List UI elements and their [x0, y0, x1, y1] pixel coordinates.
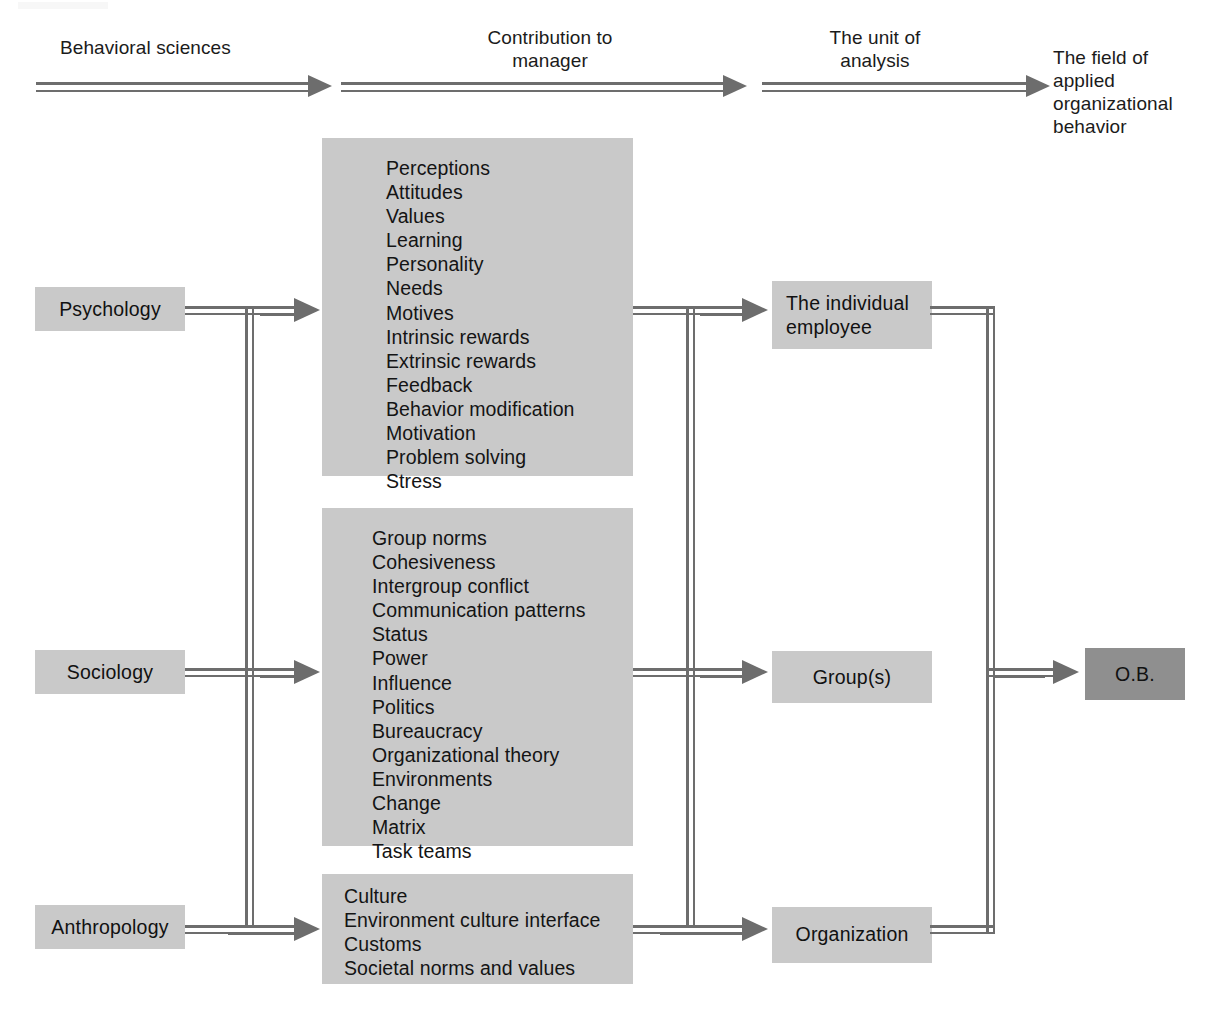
unit-label-organization: Organization [772, 922, 932, 946]
arrowhead-anthropology-to-contribution [294, 917, 320, 941]
unit-box-individual-employee[interactable]: The individual employee [772, 281, 932, 349]
connector-mid-anthropology-stub [660, 932, 745, 935]
list-item: Feedback [386, 373, 575, 397]
list-item: Societal norms and values [344, 956, 601, 980]
outcome-label-ob: O.B. [1085, 662, 1185, 686]
list-item: Attitudes [386, 180, 575, 204]
list-item: Perceptions [386, 156, 575, 180]
discipline-box-sociology[interactable]: Sociology [35, 650, 185, 694]
list-item: Cohesiveness [372, 550, 586, 574]
header-label-field-of-applied-ob: The field of applied organizational beha… [1053, 46, 1213, 138]
list-item: Motives [386, 301, 575, 325]
list-item: Problem solving [386, 445, 575, 469]
contribution-list-anthropology: Culture Environment culture interface Cu… [344, 884, 601, 980]
unit-box-organization[interactable]: Organization [772, 907, 932, 963]
list-item: Environment culture interface [344, 908, 601, 932]
list-item: Influence [372, 671, 586, 695]
contribution-list-sociology: Group norms Cohesiveness Intergroup conf… [372, 526, 586, 863]
list-item: Task teams [372, 839, 586, 863]
arrowhead-contribution-to-individual [742, 298, 768, 322]
list-item: Behavior modification [386, 397, 575, 421]
list-item: Personality [386, 252, 575, 276]
header-label-behavioral-sciences: Behavioral sciences [60, 36, 320, 59]
list-item: Change [372, 791, 586, 815]
connector-mid-psychology-stub [700, 313, 745, 316]
discipline-label-anthropology: Anthropology [35, 915, 185, 939]
arrowhead-collector-to-ob [1053, 660, 1079, 684]
list-item: Motivation [386, 421, 575, 445]
list-item: Group norms [372, 526, 586, 550]
contribution-box-anthropology[interactable]: Culture Environment culture interface Cu… [322, 874, 633, 984]
unit-box-groups[interactable]: Group(s) [772, 651, 932, 703]
list-item: Bureaucracy [372, 719, 586, 743]
scan-artifact [18, 2, 108, 9]
header-label-contribution-to-manager: Contribution to manager [425, 26, 675, 72]
list-item: Status [372, 622, 586, 646]
outcome-box-ob[interactable]: O.B. [1085, 648, 1185, 700]
list-item: Organizational theory [372, 743, 586, 767]
contribution-list-psychology: Perceptions Attitudes Values Learning Pe… [386, 156, 575, 493]
arrowhead-sociology-to-contribution [294, 660, 320, 684]
connector-ob-stub [995, 675, 1045, 678]
connector-right-collector-spine [986, 306, 995, 934]
discipline-label-sociology: Sociology [35, 660, 185, 684]
connector-anthropology-stub [228, 932, 300, 935]
contribution-box-psychology[interactable]: Perceptions Attitudes Values Learning Pe… [322, 138, 633, 476]
list-item: Needs [386, 276, 575, 300]
header-label-unit-of-analysis: The unit of analysis [770, 26, 980, 72]
list-item: Values [386, 204, 575, 228]
list-item: Environments [372, 767, 586, 791]
connector-mid-sociology-stub [700, 675, 745, 678]
arrowhead-contribution-to-groups [742, 660, 768, 684]
discipline-box-psychology[interactable]: Psychology [35, 287, 185, 331]
list-item: Learning [386, 228, 575, 252]
discipline-box-anthropology[interactable]: Anthropology [35, 905, 185, 949]
list-item: Power [372, 646, 586, 670]
contribution-box-sociology[interactable]: Group norms Cohesiveness Intergroup conf… [322, 508, 633, 846]
connector-middle-vertical-spine [686, 306, 695, 928]
list-item: Culture [344, 884, 601, 908]
list-item: Intrinsic rewards [386, 325, 575, 349]
list-item: Politics [372, 695, 586, 719]
list-item: Communication patterns [372, 598, 586, 622]
list-item: Matrix [372, 815, 586, 839]
unit-label-groups: Group(s) [772, 665, 932, 689]
list-item: Customs [344, 932, 601, 956]
list-item: Extrinsic rewards [386, 349, 575, 373]
arrowhead-psychology-to-contribution [294, 298, 320, 322]
figure-canvas: Behavioral sciences Contribution to mana… [0, 0, 1213, 1009]
list-item: Intergroup conflict [372, 574, 586, 598]
discipline-label-psychology: Psychology [35, 297, 185, 321]
unit-label-individual-employee: The individual employee [786, 291, 909, 339]
connector-left-vertical-spine [245, 306, 254, 928]
arrowhead-contribution-to-organization [742, 917, 768, 941]
list-item: Stress [386, 469, 575, 493]
